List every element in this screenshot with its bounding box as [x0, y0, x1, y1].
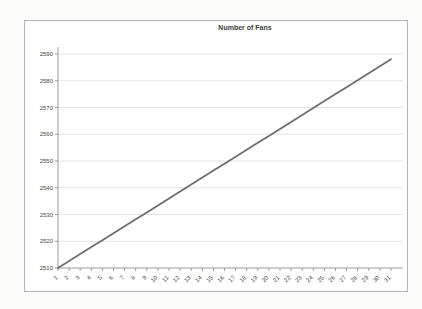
x-tick-label: 16 [216, 274, 225, 283]
x-tick-label: 8 [130, 274, 137, 281]
chart-title: Number of Fans [25, 24, 407, 34]
x-tick-label: 12 [172, 274, 181, 283]
y-tick-label: 2540 [40, 185, 54, 191]
x-tick-label: 29 [361, 274, 370, 283]
x-tick-label: 18 [238, 274, 247, 283]
chart-panel: 2510252025302540255025602570258025901234… [24, 20, 408, 292]
x-tick-label: 5 [97, 274, 104, 281]
y-tick-label: 2550 [40, 158, 54, 164]
y-tick-label: 2530 [40, 212, 54, 218]
x-tick-label: 21 [272, 274, 281, 283]
x-tick-label: 30 [372, 274, 381, 283]
x-tick-label: 14 [194, 274, 203, 283]
y-tick-label: 2560 [40, 131, 54, 137]
series-line [58, 59, 391, 268]
y-tick-label: 2580 [40, 78, 54, 84]
x-tick-label: 25 [316, 274, 325, 283]
y-tick-label: 2520 [40, 238, 54, 244]
x-tick-label: 24 [305, 274, 314, 283]
x-tick-label: 13 [183, 274, 192, 283]
x-tick-label: 4 [85, 274, 92, 281]
x-tick-label: 17 [227, 274, 236, 283]
x-tick-label: 27 [338, 274, 347, 283]
x-tick-label: 15 [205, 274, 214, 283]
y-tick-label: 2570 [40, 105, 54, 111]
y-tick-label: 2590 [40, 51, 54, 57]
x-tick-label: 6 [108, 274, 115, 281]
x-tick-label: 11 [161, 274, 170, 283]
x-tick-label: 3 [74, 274, 81, 281]
y-tick-label: 2510 [40, 265, 54, 271]
x-tick-label: 28 [349, 274, 358, 283]
x-tick-label: 22 [283, 274, 292, 283]
x-tick-label: 20 [261, 274, 270, 283]
x-tick-label: 2 [63, 274, 70, 281]
chart-plot: 2510252025302540255025602570258025901234… [25, 21, 409, 293]
x-tick-label: 7 [119, 274, 126, 281]
x-tick-label: 10 [150, 274, 159, 283]
x-tick-label: 31 [383, 274, 392, 283]
x-tick-label: 26 [327, 274, 336, 283]
x-tick-label: 1 [52, 274, 59, 281]
x-tick-label: 23 [294, 274, 303, 283]
x-tick-label: 9 [141, 274, 148, 281]
x-tick-label: 19 [250, 274, 259, 283]
